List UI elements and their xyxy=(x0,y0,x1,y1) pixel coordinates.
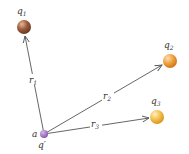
test-charge xyxy=(40,130,48,138)
label-q1: q1 xyxy=(17,6,27,17)
label-point-a: a xyxy=(32,129,37,139)
charge-q2 xyxy=(163,54,177,68)
label-test-charge: q′ xyxy=(38,140,46,150)
charge-q3 xyxy=(150,110,164,124)
label-q2: q2 xyxy=(164,40,174,51)
label-q3: q3 xyxy=(151,96,161,107)
charge-diagram: r1 r2 r3 q1 q2 q3 a q′ xyxy=(0,0,189,154)
charge-q1 xyxy=(17,20,31,34)
